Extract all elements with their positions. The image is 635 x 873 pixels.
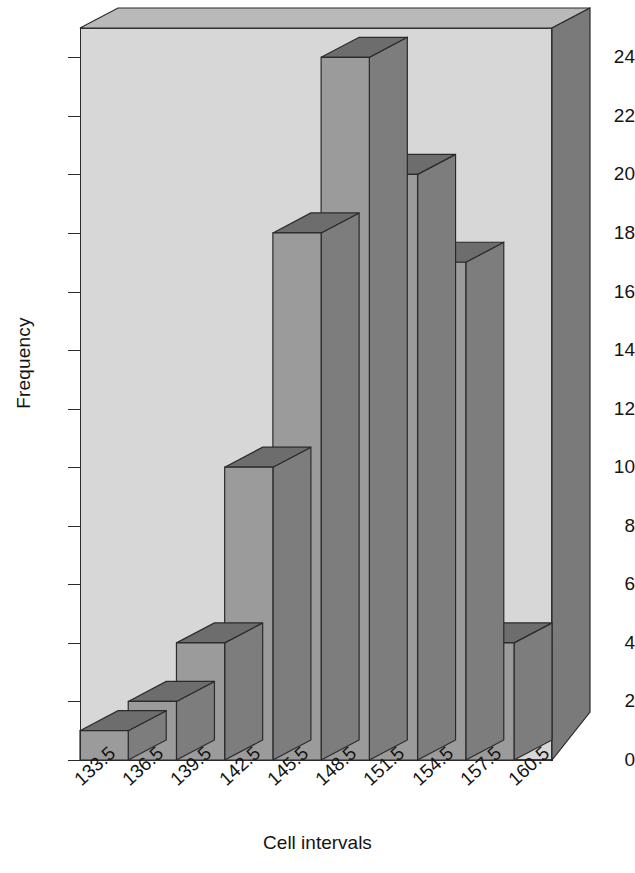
plot-floor-panel <box>552 712 590 760</box>
y-tick-label: 20 <box>593 164 635 183</box>
y-tick-label: 16 <box>593 282 635 301</box>
y-tick-mark <box>68 701 80 702</box>
y-tick-label: 4 <box>593 633 635 652</box>
y-tick-mark <box>68 643 80 644</box>
y-axis-line <box>80 28 81 761</box>
histogram-figure: 024681012141618202224 133.5136.5139.5142… <box>0 0 635 873</box>
y-axis-title: Frequency <box>13 303 35 423</box>
plot-right-panel <box>552 8 590 760</box>
y-tick-label: 8 <box>593 516 635 535</box>
y-tick-mark <box>68 350 80 351</box>
y-tick-mark <box>68 526 80 527</box>
y-tick-mark <box>68 409 80 410</box>
y-tick-label: 0 <box>593 750 635 769</box>
y-tick-mark <box>68 174 80 175</box>
y-tick-label: 12 <box>593 399 635 418</box>
y-tick-mark <box>68 233 80 234</box>
y-tick-label: 22 <box>593 106 635 125</box>
y-tick-mark <box>68 584 80 585</box>
y-tick-label: 14 <box>593 340 635 359</box>
y-tick-mark <box>68 467 80 468</box>
x-axis-title: Cell intervals <box>0 832 635 854</box>
y-tick-label: 2 <box>593 691 635 710</box>
y-tick-mark <box>68 116 80 117</box>
y-tick-mark <box>68 292 80 293</box>
y-tick-label: 18 <box>593 223 635 242</box>
y-tick-label: 10 <box>593 457 635 476</box>
y-tick-mark <box>68 760 80 761</box>
y-tick-label: 24 <box>593 47 635 66</box>
y-tick-mark <box>68 57 80 58</box>
y-tick-label: 6 <box>593 574 635 593</box>
plot-top-panel <box>80 8 590 28</box>
plot-back-wall <box>80 28 552 760</box>
